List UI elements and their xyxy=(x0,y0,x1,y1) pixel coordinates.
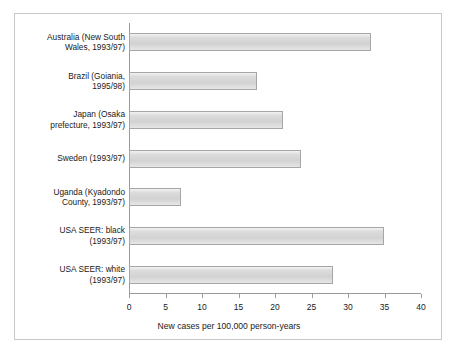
bar[interactable] xyxy=(129,150,301,168)
x-tick-mark xyxy=(348,294,349,298)
x-tick-mark xyxy=(202,294,203,298)
bar-row xyxy=(129,72,421,90)
category-label: Brazil (Goiania, 1995/98) xyxy=(68,71,125,92)
x-tick-mark xyxy=(385,294,386,298)
x-tick-label: 20 xyxy=(270,302,279,312)
x-tick-label: 15 xyxy=(234,302,243,312)
x-tick-mark xyxy=(312,294,313,298)
category-axis-labels: Australia (New South Wales, 1993/97)Braz… xyxy=(15,23,125,294)
x-tick-mark xyxy=(129,294,130,298)
bar[interactable] xyxy=(129,227,384,245)
category-label: Sweden (1993/97) xyxy=(57,153,125,164)
bar[interactable] xyxy=(129,33,371,51)
x-tick-label: 0 xyxy=(127,302,132,312)
category-label: Uganda (Kyadondo County, 1993/97) xyxy=(54,187,126,208)
x-axis-title: New cases per 100,000 person-years xyxy=(15,321,443,331)
bar-row xyxy=(129,150,421,168)
category-label: USA SEER: white (1993/97) xyxy=(60,264,125,285)
x-tick-mark xyxy=(275,294,276,298)
chart-figure: Australia (New South Wales, 1993/97)Braz… xyxy=(14,13,442,340)
bar[interactable] xyxy=(129,188,181,206)
plot-area: 0510152025303540 xyxy=(129,23,421,294)
x-tick-label: 5 xyxy=(163,302,168,312)
category-label: Australia (New South Wales, 1993/97) xyxy=(47,32,125,53)
x-tick-label: 35 xyxy=(380,302,389,312)
x-tick-label: 40 xyxy=(416,302,425,312)
bar-row xyxy=(129,188,421,206)
bar-row xyxy=(129,227,421,245)
x-tick-label: 25 xyxy=(307,302,316,312)
category-label: USA SEER: black (1993/97) xyxy=(60,225,125,246)
bar-row xyxy=(129,111,421,129)
bar[interactable] xyxy=(129,72,257,90)
x-tick-mark xyxy=(239,294,240,298)
x-tick-label: 30 xyxy=(343,302,352,312)
bar[interactable] xyxy=(129,111,283,129)
bar[interactable] xyxy=(129,266,333,284)
x-tick-mark xyxy=(421,294,422,298)
bar-row xyxy=(129,33,421,51)
bar-row xyxy=(129,266,421,284)
category-label: Japan (Osaka prefecture, 1993/97) xyxy=(50,109,125,130)
x-tick-mark xyxy=(166,294,167,298)
x-tick-label: 10 xyxy=(197,302,206,312)
